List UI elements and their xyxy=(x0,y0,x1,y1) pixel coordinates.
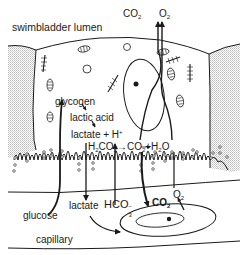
glycogen-label: glycogen xyxy=(55,97,95,107)
lactate-h-label: lactate + H+ xyxy=(71,129,123,140)
basal-membrane-folds xyxy=(14,151,228,170)
co2-text: CO xyxy=(123,8,138,19)
rbc-nucleus xyxy=(167,217,171,221)
o2-sub: 2 xyxy=(167,14,170,20)
vacuole xyxy=(83,65,91,73)
h-plus-sup: + xyxy=(119,129,123,135)
co2-sub: 2 xyxy=(138,14,141,20)
o2-cap-sub: 2 xyxy=(181,195,184,201)
reaction-arrow: → xyxy=(117,141,127,152)
swimbladder-lumen-label: swimbladder lumen xyxy=(12,22,102,33)
co2-capillary-label: CO2 xyxy=(152,198,170,209)
co2-down-arrow xyxy=(142,152,148,206)
vacuole-right xyxy=(124,44,131,51)
o2-lumen-label: O2 xyxy=(159,9,170,20)
o2-capillary-label: O2 xyxy=(173,190,184,201)
o2-lumen-arrow xyxy=(161,22,172,140)
hco-text: HCO xyxy=(104,198,128,210)
plus-h-text: +H xyxy=(145,141,158,152)
o2-text: O xyxy=(159,8,167,19)
lactate-label: lactate xyxy=(69,201,98,211)
o2-cap-text: O xyxy=(173,189,181,200)
lactate-h-text: lactate + H xyxy=(71,129,119,140)
co2-lumen-label: CO2 xyxy=(123,9,141,20)
co2-cap-text: CO xyxy=(152,197,167,208)
hco3-label: HCO−3 xyxy=(104,199,134,210)
glucose-label: glucose xyxy=(23,211,57,221)
right-lateral-membrane xyxy=(209,54,210,168)
three-sub: 3 xyxy=(128,212,131,218)
h2co3-reaction-label: H2CO3→CO2+H2O xyxy=(88,142,169,153)
co2-text: CO xyxy=(127,141,142,152)
lactic-acid-label: lactic acid xyxy=(70,113,114,123)
co-text: CO xyxy=(99,141,114,152)
capillary-label: capillary xyxy=(36,235,73,245)
nucleolus xyxy=(134,82,139,87)
o-text: O xyxy=(162,141,170,152)
left-neighbor-cell xyxy=(8,46,36,159)
capillary-upper-wall xyxy=(8,180,240,193)
co2-cap-sub: 2 xyxy=(167,203,170,209)
minus-sup: − xyxy=(128,203,132,209)
